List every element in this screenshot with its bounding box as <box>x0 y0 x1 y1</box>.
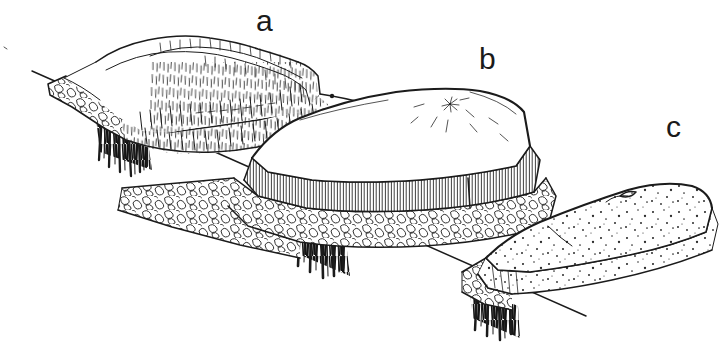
stage-label-a: a <box>256 6 273 36</box>
block-diagram-illustration <box>0 0 726 351</box>
stage-label-b: b <box>479 44 496 74</box>
figure-root: a b c <box>0 0 726 351</box>
stage-label-c: c <box>666 112 681 142</box>
